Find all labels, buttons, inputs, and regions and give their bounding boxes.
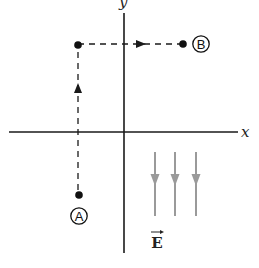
right-arrowhead-icon [136, 40, 146, 48]
field-arrow [171, 152, 180, 216]
field-label: E [151, 230, 164, 252]
down-arrowhead-icon [192, 174, 201, 186]
up-arrowhead-icon [74, 83, 82, 93]
b-dot [179, 40, 187, 48]
down-arrowhead-icon [171, 174, 180, 186]
electric-field-arrows [151, 152, 201, 216]
dashed-path [74, 40, 183, 190]
a-label: A [75, 209, 84, 224]
b-label: B [197, 37, 206, 52]
corner-dot [74, 41, 82, 49]
x-axis-label: x [241, 123, 250, 141]
coordinate-axes: x y [9, 0, 250, 253]
field-arrow [151, 152, 160, 216]
e-field-label: E [151, 234, 162, 252]
point-corner [74, 41, 82, 49]
diagram-canvas: x y B A [0, 0, 259, 268]
electric-field-diagram: x y B A [0, 0, 259, 268]
point-a: A [71, 191, 87, 224]
y-axis-label: y [118, 0, 128, 11]
a-dot [75, 191, 83, 199]
field-arrow [192, 152, 201, 216]
down-arrowhead-icon [151, 174, 160, 186]
point-b: B [179, 36, 209, 52]
